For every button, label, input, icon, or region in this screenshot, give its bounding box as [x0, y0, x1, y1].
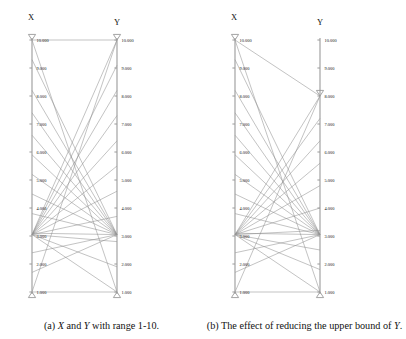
- axis-tick-label: 7.000: [122, 122, 133, 127]
- axis-y-a: 10.0009.0008.0007.0006.0005.0004.0003.00…: [113, 34, 134, 297]
- link-lines-group: [235, 40, 320, 292]
- axis-tick-label: 5.000: [325, 178, 336, 183]
- axis-tick-label: 10.000: [325, 38, 338, 43]
- axis-tick-label: 8.000: [240, 94, 251, 99]
- axis-tick-label: 1.000: [37, 290, 48, 295]
- caption-b-part2: .: [400, 320, 403, 331]
- link-lines-group: [32, 40, 117, 292]
- axis-tick-label: 4.000: [325, 206, 336, 211]
- subfigure-b: 10.0009.0008.0007.0006.0005.0004.0003.00…: [203, 0, 406, 339]
- caption-a-part4: with range 1-10.: [89, 320, 159, 331]
- axis-tick-label: 3.000: [325, 234, 336, 239]
- axis-y-b: 10.0009.0008.0007.0006.0005.0004.0003.00…: [316, 38, 337, 298]
- link-line: [235, 90, 320, 234]
- parallel-coordinates-plot-b: 10.0009.0008.0007.0006.0005.0004.0003.00…: [203, 0, 406, 300]
- axis-tick-label: 4.000: [37, 206, 48, 211]
- caption-a: (a) X and Y with range 1-10.: [0, 320, 203, 333]
- axis-tick-label: 8.000: [37, 94, 48, 99]
- axis-title-x-b: X: [231, 12, 237, 22]
- axis-tick-label: 10.000: [122, 38, 135, 43]
- parallel-coordinates-plot-a: 10.0009.0008.0007.0006.0005.0004.0003.00…: [0, 0, 203, 300]
- link-line: [235, 118, 320, 234]
- axis-tick-label: 2.000: [37, 262, 48, 267]
- link-line: [235, 208, 320, 235]
- axis-tick-label: 9.000: [240, 66, 251, 71]
- axis-tick-label: 4.000: [240, 206, 251, 211]
- caption-a-part2: and: [64, 320, 84, 331]
- axis-tick-label: 10.000: [240, 38, 253, 43]
- axis-tick-label: 2.000: [122, 262, 133, 267]
- axis-tick-label: 10.000: [37, 38, 50, 43]
- subfigure-a: 10.0009.0008.0007.0006.0005.0004.0003.00…: [0, 0, 203, 339]
- axis-tick-label: 6.000: [122, 150, 133, 155]
- axis-tick-label: 6.000: [240, 150, 251, 155]
- axis-tick-label: 1.000: [122, 290, 133, 295]
- axis-tick-label: 7.000: [325, 122, 336, 127]
- axis-tick-label: 1.000: [240, 290, 251, 295]
- caption-b: (b) The effect of reducing the upper bou…: [203, 320, 406, 333]
- axis-tick-label: 5.000: [240, 178, 251, 183]
- axis-title-y-b: Y: [317, 17, 323, 27]
- axis-tick-label: 2.000: [240, 262, 251, 267]
- caption-a-part0: (a): [44, 320, 58, 331]
- axis-tick-label: 6.000: [325, 150, 336, 155]
- axis-tick-label: 1.000: [325, 290, 336, 295]
- axis-tick-label: 7.000: [37, 122, 48, 127]
- axis-tick-label: 8.000: [325, 94, 336, 99]
- axis-tick-label: 3.000: [240, 234, 251, 239]
- axis-title-y-a: Y: [114, 17, 120, 27]
- axis-tick-label: 6.000: [37, 150, 48, 155]
- link-line: [235, 174, 320, 234]
- axis-tick-label: 2.000: [325, 262, 336, 267]
- axis-tick-label: 3.000: [37, 234, 48, 239]
- axis-tick-label: 5.000: [37, 178, 48, 183]
- axis-title-x-a: X: [28, 12, 34, 22]
- link-line: [235, 96, 320, 235]
- axis-tick-label: 3.000: [122, 234, 133, 239]
- axis-tick-label: 7.000: [240, 122, 251, 127]
- axis-tick-label: 9.000: [37, 66, 48, 71]
- axis-tick-label: 8.000: [122, 94, 133, 99]
- axis-tick-label: 9.000: [122, 66, 133, 71]
- caption-b-part0: (b) The effect of reducing the upper bou…: [207, 320, 394, 331]
- link-line: [235, 40, 320, 292]
- axis-tick-label: 5.000: [122, 178, 133, 183]
- figure-container: 10.0009.0008.0007.0006.0005.0004.0003.00…: [0, 0, 406, 339]
- axis-tick-label: 9.000: [325, 66, 336, 71]
- axis-tick-label: 4.000: [122, 206, 133, 211]
